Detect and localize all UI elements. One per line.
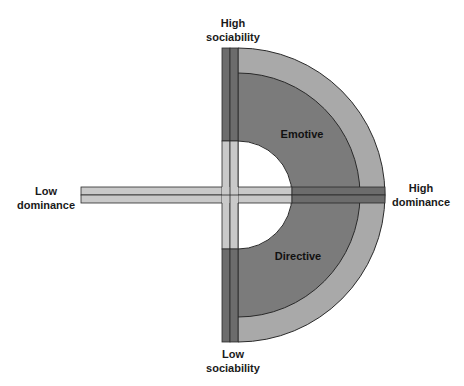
top-axis-label-line2: sociability — [206, 31, 261, 43]
horizontal-bar-left-bottom — [81, 195, 292, 203]
social-style-diagram: High sociability Low sociability Low dom… — [0, 0, 464, 386]
right-axis-label-line1: High — [409, 182, 434, 194]
left-axis-label-line2: dominance — [17, 199, 75, 211]
right-axis-label-line2: dominance — [392, 196, 450, 208]
bottom-axis-label-line2: sociability — [206, 362, 261, 374]
vertical-bar-bottom-left — [222, 249, 230, 342]
vertical-bar-top-right — [230, 48, 238, 141]
vertical-bar-top-left — [222, 48, 230, 141]
top-axis-label-line1: High — [221, 17, 246, 29]
zone-label-emotive: Emotive — [281, 128, 324, 140]
horizontal-bar-right-bottom — [292, 195, 385, 203]
left-axis-label-line1: Low — [35, 185, 57, 197]
horizontal-bar-right-top — [292, 187, 385, 195]
bottom-axis-label-line1: Low — [222, 348, 244, 360]
horizontal-bar-left-top — [81, 187, 292, 195]
zone-label-directive: Directive — [275, 250, 321, 262]
vertical-bar-bottom-right — [230, 249, 238, 342]
